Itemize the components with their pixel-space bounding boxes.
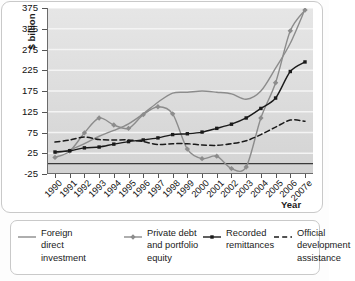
x-tick-mark [173,174,174,178]
x-tick-mark [246,174,247,178]
legend-label-line: Foreign [41,227,117,239]
legend-label-official-development-assistance: Officialdevelopmentassistance [297,227,355,264]
x-tick-mark [99,174,100,178]
y-tick-label: 325 [0,24,38,34]
legend-label-line: Official [297,227,355,239]
data-point-marker [156,136,159,139]
x-tick-mark [114,174,115,178]
x-tick-mark [143,174,144,178]
x-tick-mark [231,174,232,178]
data-point-marker [199,156,204,161]
y-tick-mark [42,174,47,175]
data-point-marker [52,155,57,160]
data-point-marker [53,150,56,153]
x-tick-mark [187,174,188,178]
legend-label-line: direct [41,239,117,251]
data-point-marker [68,149,71,152]
x-tick-mark [202,174,203,178]
data-point-marker [215,127,218,130]
x-tick-mark [70,174,71,178]
data-point-marker [274,96,277,99]
x-tick-mark [55,174,56,178]
legend-label-foreign-direct-investment: Foreigndirectinvestment [41,227,117,264]
chart-legend: ForeigndirectinvestmentPrivate debtand p… [10,220,320,275]
data-point-marker [258,115,263,120]
data-point-marker [244,116,247,119]
y-tick-label: 125 [0,107,38,117]
legend-swatch-recorded-remittances-icon [202,232,222,240]
x-tick-mark [84,174,85,178]
legend-label-line: development [297,239,355,251]
data-point-marker [111,122,116,127]
data-point-marker [112,142,115,145]
y-tick-label: 75 [0,128,38,138]
x-tick-mark [129,174,130,178]
x-tick-mark [217,174,218,178]
legend-label-line: assistance [297,252,355,264]
data-point-marker [186,132,189,135]
data-point-marker [83,146,86,149]
legend-item-recorded-remittances[interactable]: Recordedremittances [202,227,284,252]
data-point-marker [289,70,292,73]
data-point-marker [96,115,101,120]
y-tick-label: 275 [0,45,38,55]
legend-item-foreign-direct-investment[interactable]: Foreigndirectinvestment [17,227,117,264]
data-point-marker [171,133,174,136]
data-point-marker [200,130,203,133]
data-point-marker [259,107,262,110]
y-tick-label: 25 [0,148,38,158]
y-tick-label: 375 [0,3,38,13]
data-point-marker [155,104,160,109]
data-point-marker [273,80,278,85]
legend-swatch-foreign-direct-investment-icon [17,232,37,240]
x-tick-mark [276,174,277,178]
y-tick-label: 175 [0,86,38,96]
series-layer [52,8,307,171]
y-tick-label: 225 [0,65,38,75]
y-tick-label: -25 [0,169,38,179]
x-tick-mark [261,174,262,178]
legend-label-line: investment [41,252,117,264]
data-point-marker [230,123,233,126]
plot-area [47,8,313,174]
legend-swatch-official-development-assistance-icon [273,232,293,240]
x-tick-mark [158,174,159,178]
plot-svg [47,8,313,174]
legend-item-official-development-assistance[interactable]: Officialdevelopmentassistance [273,227,355,264]
legend-label-line: equity [147,252,215,264]
data-point-marker [97,145,100,148]
x-tick-mark [305,174,306,178]
legend-swatch-private-debt-portfolio-equity-icon [123,232,143,240]
x-tick-mark [290,174,291,178]
data-point-marker [303,60,306,63]
